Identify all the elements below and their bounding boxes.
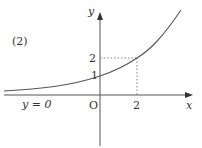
x-tick-2: 2 xyxy=(133,99,140,112)
graph: (2) y x 2 1 O 2 y = 0 xyxy=(0,0,202,148)
origin-label: O xyxy=(89,99,98,112)
asymptote-label: y = 0 xyxy=(21,98,51,111)
x-axis-arrow-icon xyxy=(185,92,193,98)
y-tick-1: 1 xyxy=(91,69,98,82)
y-axis-label: y xyxy=(87,5,95,18)
y-tick-2: 2 xyxy=(89,52,96,65)
y-axis-arrow-icon xyxy=(97,12,103,20)
x-axis-label: x xyxy=(186,99,193,112)
figure-label: (2) xyxy=(12,35,28,48)
